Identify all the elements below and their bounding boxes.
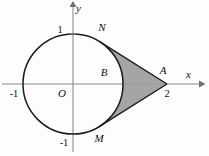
point-label-n: N xyxy=(97,21,106,33)
geometry-figure: y x 1 -1 -1 2 O B A N M xyxy=(0,0,209,156)
tick-label-y-one: 1 xyxy=(57,24,62,35)
tick-label-y-negative-one: -1 xyxy=(60,137,69,148)
x-axis-arrow xyxy=(199,81,206,88)
geometry-canvas: y x 1 -1 -1 2 O B A N M xyxy=(0,0,209,156)
point-label-b: B xyxy=(101,66,108,78)
point-label-a: A xyxy=(159,64,167,76)
tick-label-x-negative-one: -1 xyxy=(10,88,19,99)
tick-label-x-two: 2 xyxy=(164,88,169,99)
point-label-o: O xyxy=(58,87,66,99)
y-axis-label: y xyxy=(75,2,81,14)
point-label-m: M xyxy=(93,132,104,144)
x-axis-label: x xyxy=(185,68,191,80)
